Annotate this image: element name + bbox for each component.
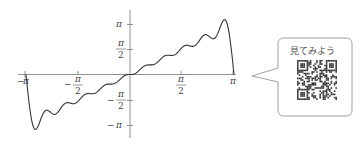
svg-text:π: π [115, 19, 123, 29]
svg-text:π: π [74, 74, 82, 84]
svg-text:π: π [117, 89, 125, 99]
svg-text:π: π [177, 74, 185, 84]
callout-bubble: 見てみよう [252, 38, 352, 116]
svg-text:π: π [115, 120, 123, 130]
svg-text:π: π [117, 38, 125, 48]
fourier-series-figure: − π − π 2 π 2 π π π 2 − π 2 − π 見てみよう [0, 0, 364, 146]
svg-text:2: 2 [118, 101, 124, 111]
svg-text:2: 2 [75, 86, 81, 96]
svg-text:π: π [229, 76, 237, 86]
svg-text:2: 2 [178, 86, 184, 96]
x-tick-labels: − π − π 2 π 2 π [17, 74, 237, 96]
axes [18, 10, 236, 138]
svg-text:−: − [107, 120, 115, 130]
svg-text:−: − [64, 79, 72, 89]
callout-text: 見てみよう [290, 46, 335, 56]
svg-text:2: 2 [118, 50, 124, 60]
svg-text:−: − [107, 95, 115, 105]
